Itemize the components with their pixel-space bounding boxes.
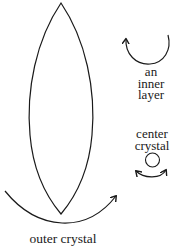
center-crystal-label: center crystal [126,128,172,151]
center-crystal-circle [146,153,160,167]
center-crystal-label-line-2: crystal [126,140,172,152]
inner-layer-rotation-arrow-icon [126,35,169,64]
outer-crystal-lens-shape [29,3,93,214]
center-crystal-rotation-arrow-icon [136,170,166,177]
inner-layer-label-line-3: layer [126,89,172,101]
inner-layer-label: an inner layer [126,66,172,101]
outer-crystal-label: outer crystal [18,233,108,245]
outer-crystal-rotation-arrow-icon [5,191,116,223]
